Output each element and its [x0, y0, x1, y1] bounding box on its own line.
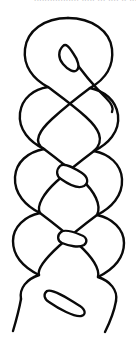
strand-b-helix: [38, 88, 90, 149]
pointed-rope-end-icon: [59, 45, 78, 71]
tail-left: [13, 299, 21, 331]
strand-tab-upper-icon: [57, 165, 87, 187]
tail-right: [105, 301, 116, 332]
strand-tab-middle-icon: [58, 231, 86, 247]
strand-a-helix: [48, 87, 100, 151]
rope-drawing: Line drawing of a twisted rope: [0, 0, 136, 343]
rope-strand-group: [13, 18, 124, 332]
figure-canvas: ................. ..... ... .... .. ....…: [0, 0, 136, 343]
strand-tab-lower-icon: [45, 290, 85, 316]
